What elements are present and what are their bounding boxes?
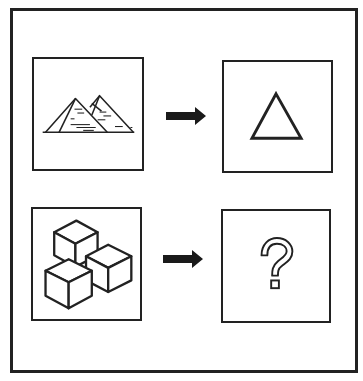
pyramids-box: Pyramids <box>32 57 144 171</box>
cubes-box: Cubes <box>31 207 142 321</box>
answer-box[interactable]: ? <box>221 209 331 323</box>
right-arrow-icon <box>166 106 206 126</box>
right-arrow-icon <box>163 249 203 269</box>
question-mark-icon <box>223 211 329 321</box>
triangle-icon <box>224 62 331 171</box>
pyramids-icon <box>34 59 142 169</box>
triangle-box: Triangle <box>222 60 333 173</box>
cubes-icon <box>33 209 140 319</box>
